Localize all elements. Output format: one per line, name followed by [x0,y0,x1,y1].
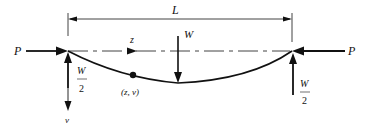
reaction-left-denominator: 2 [79,83,84,94]
dimension-arrow-right-icon [283,17,292,22]
z-axis-label: z [129,34,134,45]
v-axis-arrow-icon [65,101,72,111]
reaction-left-arrow-icon [64,52,72,63]
span-dimension: L [68,3,292,42]
dimension-arrow-left-icon [68,17,77,22]
load-w-label: W [184,28,194,40]
axial-load-right-arrow-icon [292,47,304,56]
reaction-left-numerator: W [77,65,87,76]
axial-load-left-arrow-icon [56,47,68,56]
point-label: (z, v) [121,87,139,97]
beam-column-diagram: L z (z, v) W P P W 2 v W 2 [0,0,365,128]
diagram-svg: L z (z, v) W P P W 2 v W 2 [0,0,365,128]
reaction-right-arrow-icon [289,53,297,64]
load-w-arrow-icon [174,72,182,83]
reaction-right-numerator: W [300,78,310,89]
axial-load-right-label: P [347,44,356,58]
reaction-right-denominator: 2 [302,95,307,106]
z-axis-arrow-icon [127,48,137,55]
span-label: L [171,3,179,17]
deflected-beam-curve [68,51,292,83]
v-axis-label: v [65,115,69,125]
axial-load-left-label: P [13,44,22,58]
point-marker [130,72,136,78]
